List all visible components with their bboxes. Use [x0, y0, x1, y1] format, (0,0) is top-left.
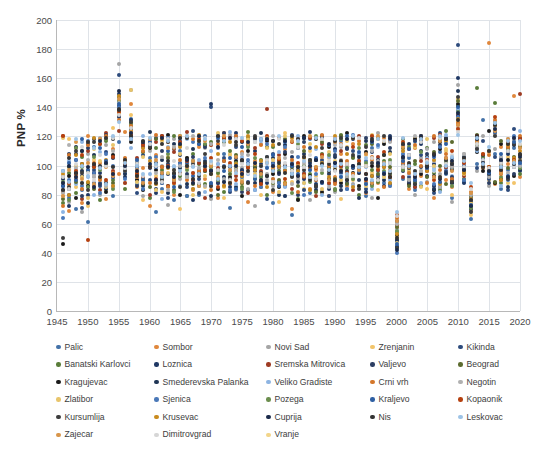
data-point — [185, 146, 189, 150]
data-point — [259, 182, 263, 186]
legend-swatch-icon — [458, 397, 463, 402]
data-point — [308, 198, 312, 202]
legend-item[interactable]: Zrenjanin — [370, 338, 458, 356]
data-point — [265, 107, 269, 111]
legend-item[interactable]: Valjevo — [370, 356, 458, 374]
legend-item[interactable]: Pozega — [266, 391, 370, 409]
data-point — [246, 191, 250, 195]
legend-item[interactable]: Vranje — [266, 426, 370, 444]
data-point — [203, 190, 207, 194]
legend-item[interactable]: Sjenica — [154, 391, 266, 409]
legend-item[interactable]: Kragujevac — [56, 373, 154, 391]
data-point — [364, 172, 368, 176]
data-point — [296, 145, 300, 149]
legend-item[interactable]: Dimitrovgrad — [154, 426, 266, 444]
legend-item[interactable]: Negotin — [458, 373, 533, 391]
data-point — [123, 181, 127, 185]
y-tick-label: 40 — [41, 247, 52, 258]
data-point — [253, 204, 257, 208]
legend-item[interactable]: Cuprija — [266, 408, 370, 426]
data-point — [308, 164, 312, 168]
data-point — [425, 181, 429, 185]
legend-item[interactable]: Veliko Gradiste — [266, 373, 370, 391]
legend-item[interactable]: Palic — [56, 338, 154, 356]
legend-item[interactable]: Zajecar — [56, 426, 154, 444]
data-point — [191, 134, 195, 138]
data-point — [178, 169, 182, 173]
data-point — [123, 130, 127, 134]
data-point — [61, 216, 65, 220]
data-point — [253, 161, 257, 165]
data-point — [222, 180, 226, 184]
data-point — [203, 137, 207, 141]
legend-item[interactable]: Loznica — [154, 356, 266, 374]
data-point — [86, 180, 90, 184]
data-point — [172, 185, 176, 189]
legend-swatch-icon — [370, 345, 375, 350]
data-point — [320, 146, 324, 150]
legend-item[interactable]: Nis — [370, 408, 458, 426]
legend-item[interactable]: Beograd — [458, 356, 533, 374]
data-point — [74, 137, 78, 141]
legend-item[interactable]: Krusevac — [154, 408, 266, 426]
x-tick-label: 1955 — [108, 316, 129, 327]
data-point — [357, 178, 361, 182]
data-point — [154, 146, 158, 150]
legend-item[interactable]: Zlatibor — [56, 391, 154, 409]
data-point — [185, 194, 189, 198]
data-point — [450, 155, 454, 159]
data-point — [240, 172, 244, 176]
data-point — [271, 201, 275, 205]
legend-item[interactable]: Kraljevo — [370, 391, 458, 409]
legend-item-label: Loznica — [163, 360, 193, 369]
data-point — [450, 180, 454, 184]
data-point — [86, 201, 90, 205]
data-point — [425, 152, 429, 156]
legend-item[interactable]: Crni vrh — [370, 373, 458, 391]
data-point — [265, 193, 269, 197]
data-point — [129, 113, 133, 117]
data-point — [104, 182, 108, 186]
data-point — [481, 139, 485, 143]
data-point — [388, 169, 392, 173]
data-point — [518, 92, 522, 96]
data-point — [419, 150, 423, 154]
legend-item[interactable]: Leskovac — [458, 408, 533, 426]
data-point — [154, 181, 158, 185]
data-point — [462, 159, 466, 163]
legend-item[interactable]: Smederevska Palanka — [154, 373, 266, 391]
data-point — [395, 210, 399, 214]
legend-item[interactable]: Novi Sad — [266, 338, 370, 356]
legend-item[interactable]: Banatski Karlovci — [56, 356, 154, 374]
data-point — [333, 169, 337, 173]
data-point — [456, 118, 460, 122]
data-point — [438, 134, 442, 138]
data-point — [172, 190, 176, 194]
legend-item[interactable]: Sombor — [154, 338, 266, 356]
legend-item[interactable]: Sremska Mitrovica — [266, 356, 370, 374]
legend-item[interactable]: Kopaonik — [458, 391, 533, 409]
data-point — [320, 155, 324, 159]
legend-swatch-icon — [370, 397, 375, 402]
legend-item[interactable]: Kikinda — [458, 338, 533, 356]
x-tick-label: 2015 — [479, 316, 500, 327]
data-point — [413, 172, 417, 176]
data-point — [92, 155, 96, 159]
data-point — [129, 88, 133, 92]
y-tick-label: 180 — [36, 44, 52, 55]
data-point — [376, 178, 380, 182]
data-point — [166, 159, 170, 163]
legend-item[interactable]: Kursumlija — [56, 408, 154, 426]
data-point — [209, 188, 213, 192]
data-point — [345, 172, 349, 176]
data-point — [277, 184, 281, 188]
data-point — [376, 188, 380, 192]
data-point — [432, 134, 436, 138]
data-point — [129, 120, 133, 124]
data-point — [395, 214, 399, 218]
data-point — [357, 136, 361, 140]
data-point — [277, 190, 281, 194]
y-tick-label: 0 — [47, 306, 52, 317]
y-tick-label: 140 — [36, 102, 52, 113]
data-point — [438, 190, 442, 194]
